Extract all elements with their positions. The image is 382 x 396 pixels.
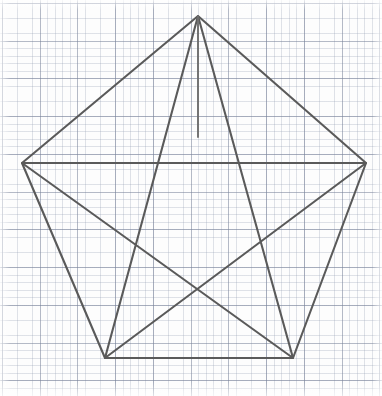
pentagram-drawing [0, 0, 382, 396]
pentagon-outline [22, 16, 366, 358]
pentagram-outline [22, 16, 366, 358]
figure-canvas [0, 0, 382, 396]
